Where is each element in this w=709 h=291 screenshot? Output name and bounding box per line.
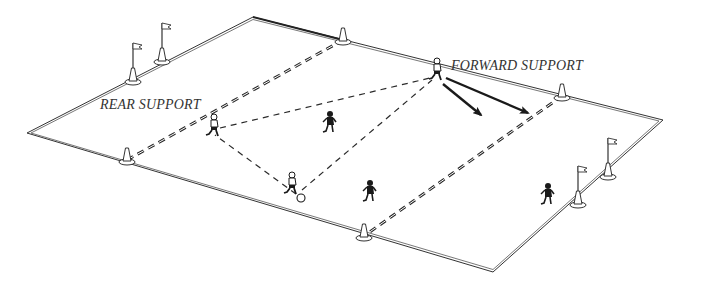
cone-icon [335, 28, 351, 45]
rear-support-label: REAR SUPPORT [100, 97, 201, 113]
cone-icon [554, 84, 570, 101]
flag-icon [154, 23, 171, 65]
drill-diagram: REAR SUPPORT FORWARD SUPPORT [0, 0, 709, 291]
ball-icon [297, 194, 305, 202]
field-canvas [0, 0, 709, 291]
field-boundary [27, 17, 663, 272]
forward-support-label: FORWARD SUPPORT [451, 58, 583, 74]
